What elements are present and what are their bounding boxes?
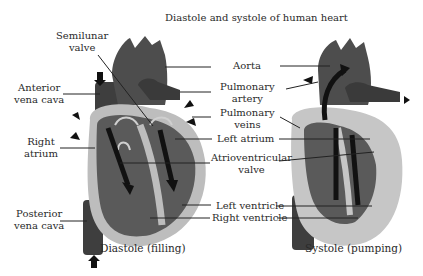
label-left-ventricle: Left ventricle <box>216 200 284 212</box>
label-anterior-vena-cava: Anterior vena cava <box>14 82 64 106</box>
caption-diastole: Diastole (filling) <box>100 242 186 254</box>
diastole-heart <box>70 36 206 268</box>
label-left-atrium: Left atrium <box>217 133 274 145</box>
caption-systole: Systole (pumping) <box>305 242 402 254</box>
label-posterior-vena-cava: Posterior vena cava <box>14 208 64 232</box>
label-atrioventricular-valve: Atrioventricular valve <box>211 152 292 176</box>
label-pulmonary-veins: Pulmonary veins <box>220 107 275 131</box>
label-aorta: Aorta <box>233 60 261 72</box>
label-right-atrium: Right atrium <box>24 136 58 160</box>
label-right-ventricle: Right ventricle <box>212 212 288 224</box>
label-semilunar-valve: Semilunar valve <box>56 30 108 54</box>
label-pulmonary-artery: Pulmonary artery <box>220 81 275 105</box>
